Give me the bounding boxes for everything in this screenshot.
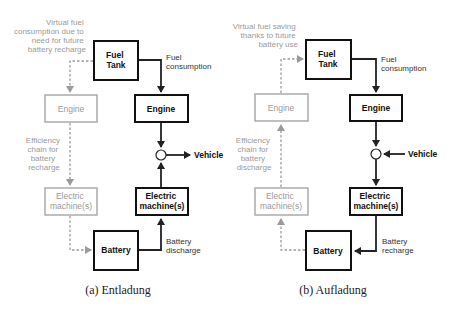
virtual-fuel-saving-line	[281, 59, 303, 93]
fuel-consumption-line	[352, 59, 376, 92]
virtual-discharge-line	[281, 219, 305, 250]
vehicle-label: Vehicle	[408, 149, 438, 159]
panel-discharge: Virtual fuel consumption due to need for…	[14, 18, 224, 297]
engine-label: Engine	[147, 104, 176, 114]
efficiency-chain-note: Efficiency chain for battery recharge	[26, 136, 62, 172]
vehicle-label: Vehicle	[194, 150, 224, 160]
fuel-consumption-label: Fuel consumption	[166, 53, 211, 71]
virtual-electric-machine-label: Electric machine(s)	[50, 191, 92, 211]
virtual-electric-machine-label: Electric machine(s)	[260, 191, 302, 211]
engine-label: Engine	[362, 103, 391, 113]
battery-recharge-label: Battery recharge	[382, 237, 414, 255]
hybrid-energy-flow-diagram: Virtual fuel consumption due to need for…	[0, 0, 451, 313]
battery-label: Battery	[313, 246, 343, 256]
fuel-consumption-label: Fuel consumption	[381, 55, 426, 73]
electric-machine-label: Electric machine(s)	[140, 191, 185, 211]
power-junction-node	[156, 150, 166, 160]
fuel-tank-label: Fuel Tank	[106, 50, 126, 70]
virtual-fuel-flow-line	[70, 61, 93, 92]
battery-label: Battery	[101, 245, 131, 255]
caption-charge: (b) Aufladung	[299, 283, 367, 297]
virtual-fuel-note: Virtual fuel saving thanks to future bat…	[233, 22, 299, 49]
electric-machine-label: Electric machine(s)	[354, 191, 399, 211]
efficiency-chain-note: Efficiency chain for battery discharge	[236, 136, 272, 172]
power-junction-node	[371, 149, 381, 159]
virtual-fuel-note: Virtual fuel consumption due to need for…	[14, 18, 87, 54]
caption-discharge: (a) Entladung	[85, 283, 151, 297]
fuel-consumption-line	[139, 60, 161, 92]
panel-charge: Virtual fuel saving thanks to future bat…	[233, 22, 438, 297]
battery-recharge-line	[355, 216, 376, 251]
battery-discharge-label: Battery discharge	[166, 237, 201, 255]
battery-discharge-line	[139, 219, 161, 250]
virtual-engine-label: Engine	[58, 104, 85, 114]
fuel-tank-label: Fuel Tank	[318, 49, 338, 69]
virtual-engine-label: Engine	[268, 103, 295, 113]
virtual-recharge-line	[70, 216, 91, 250]
